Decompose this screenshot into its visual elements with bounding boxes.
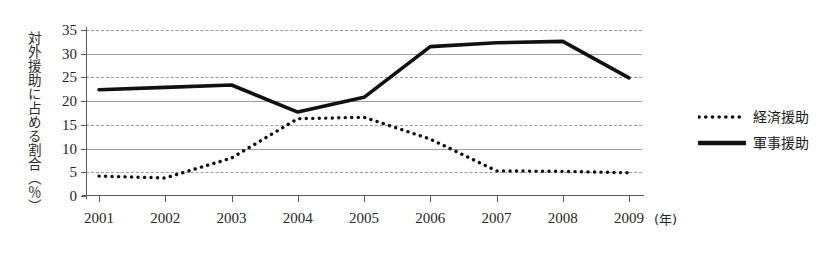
x-tick-label: 2001 [84, 211, 114, 226]
x-tick-mark [364, 196, 365, 202]
x-tick-mark [563, 196, 564, 202]
legend-label: 経済援助 [753, 110, 809, 124]
x-tick-mark [298, 196, 299, 202]
x-tick-mark [497, 196, 498, 202]
y-tick-label: 10 [62, 141, 77, 156]
chart-legend: 経済援助軍事援助 [698, 104, 826, 156]
y-tick-label: 25 [62, 70, 77, 85]
series-plot [86, 30, 642, 196]
chart-figure: 対外援助に占める割合（％） 05101520253035 20012002200… [0, 0, 829, 256]
y-axis-caption: 対外援助に占める割合（％） [14, 18, 40, 226]
x-tick-label: 2006 [415, 211, 445, 226]
series-line [99, 41, 629, 112]
dotted-line-icon [698, 112, 746, 122]
x-tick-label: 2007 [482, 211, 512, 226]
y-tick-label: 20 [62, 94, 77, 109]
x-tick-label: 2009 [614, 211, 644, 226]
y-tick-label: 15 [62, 117, 77, 132]
plot-area: 05101520253035 2001200220032004200520062… [86, 30, 642, 196]
y-tick-label: 35 [62, 23, 77, 38]
x-tick-label: 2008 [548, 211, 578, 226]
legend-item[interactable]: 経済援助 [698, 104, 826, 130]
x-tick-mark [629, 196, 630, 202]
legend-label: 軍事援助 [753, 136, 809, 150]
x-tick-mark [430, 196, 431, 202]
x-tick-label: 2003 [217, 211, 247, 226]
x-tick-label: 2005 [349, 211, 379, 226]
solid-line-icon [698, 138, 746, 148]
x-tick-label: 2004 [283, 211, 313, 226]
legend-item[interactable]: 軍事援助 [698, 130, 826, 156]
x-tick-label: 2002 [150, 211, 180, 226]
x-tick-mark [232, 196, 233, 202]
series-line [99, 117, 629, 178]
y-tick-label: 30 [62, 46, 77, 61]
y-tick-label: 0 [70, 189, 78, 204]
x-tick-mark [99, 196, 100, 202]
x-tick-mark [165, 196, 166, 202]
x-axis-unit-label: (年) [654, 213, 677, 226]
y-tick-mark [81, 196, 87, 197]
y-tick-label: 5 [70, 165, 78, 180]
